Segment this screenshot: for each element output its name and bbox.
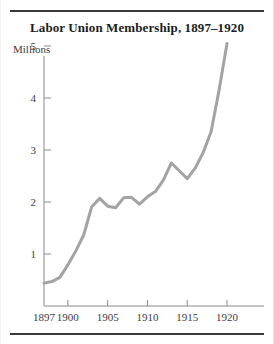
- x-tick-label: 1910: [136, 311, 159, 323]
- y-tick-label: 4: [31, 92, 37, 104]
- chart-figure: Labor Union Membership, 1897–1920 Millio…: [0, 0, 274, 344]
- x-tick-label: 1905: [97, 311, 120, 323]
- x-tick-group: 189719001905191019151920: [33, 300, 239, 323]
- plot-area: 12345 189719001905191019151920: [0, 0, 274, 344]
- y-tick-group: 12345: [31, 40, 52, 260]
- y-tick-label: 5: [31, 40, 37, 52]
- data-line-series: [44, 43, 227, 283]
- x-tick-label: 1897: [33, 311, 56, 323]
- x-tick-label: 1900: [57, 311, 80, 323]
- y-tick-label: 2: [31, 196, 37, 208]
- x-tick-label: 1920: [216, 311, 239, 323]
- y-tick-label: 3: [31, 144, 37, 156]
- y-tick-label: 1: [31, 248, 37, 260]
- x-tick-label: 1915: [176, 311, 199, 323]
